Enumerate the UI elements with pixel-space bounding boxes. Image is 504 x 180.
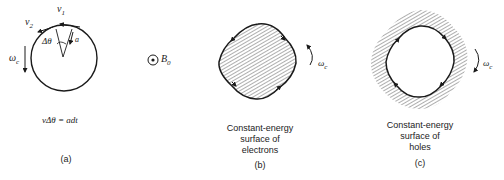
- panel-c-caption: Constant-energy surface of holes: [375, 120, 465, 153]
- panel-c-label: (c): [408, 158, 432, 169]
- acceleration-label: a: [75, 35, 79, 44]
- omega-c-label-c: ωc: [483, 58, 492, 71]
- delta-theta-label: Δθ: [42, 36, 52, 46]
- v2-label: v2: [25, 16, 33, 30]
- electron-energy-surface: [219, 24, 296, 99]
- delta-theta-triangle: [56, 29, 72, 57]
- panel-b-caption: Constant-energy surface of electrons: [215, 123, 305, 156]
- orbit-circle: [31, 25, 97, 91]
- omega-c-arrow-b: [307, 45, 312, 65]
- omega-c-arrow-c: [474, 49, 479, 72]
- velocity-equation: vΔθ = adt: [42, 115, 78, 125]
- hole-energy-surface: [371, 10, 468, 109]
- v1-label: v1: [57, 3, 65, 17]
- magnetic-field-out-of-page-icon: [148, 55, 158, 65]
- omega-c-label-a: ωc: [9, 52, 19, 66]
- panel-a-caption: (a): [54, 154, 78, 165]
- magnetic-field-label: B0: [161, 53, 171, 67]
- panel-b-label: (b): [248, 160, 272, 171]
- omega-c-label-b: ωc: [318, 58, 327, 71]
